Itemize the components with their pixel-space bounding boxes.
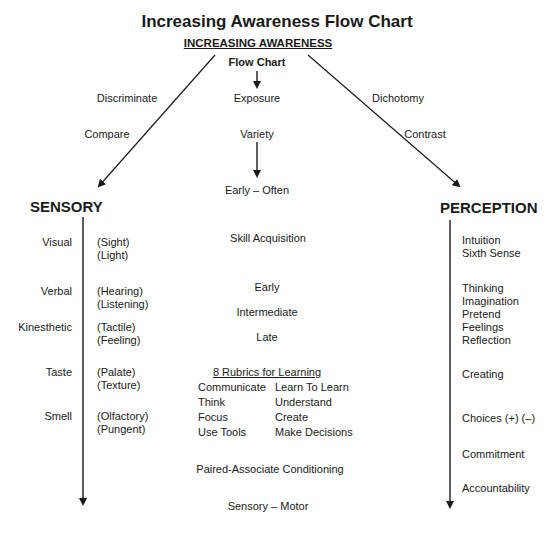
rubrics-grid: Communicate Learn To Learn Think Underst… <box>198 381 353 439</box>
perception-item: Intuition <box>462 234 521 247</box>
page-title: Increasing Awareness Flow Chart <box>141 12 412 32</box>
perception-heading: PERCEPTION <box>440 199 538 216</box>
detail-text: (Hearing) <box>97 285 148 298</box>
discriminate-label: Discriminate <box>97 92 158 105</box>
detail-text: (Sight) <box>97 236 129 249</box>
perception-item: Sixth Sense <box>462 247 521 260</box>
detail-text: (Feeling) <box>97 334 140 347</box>
detail-text: (Light) <box>97 249 129 262</box>
sense-kinesthetic: Kinesthetic <box>18 321 72 334</box>
early-often-node: Early – Often <box>225 184 289 197</box>
perception-item: Pretend <box>462 308 519 321</box>
rubric-item: Make Decisions <box>275 426 353 439</box>
rubrics-title: 8 Rubrics for Learning <box>213 366 321 379</box>
perception-item-creating: Creating <box>462 368 504 381</box>
flow-chart-label: Flow Chart <box>229 56 286 69</box>
perception-item: Reflection <box>462 334 519 347</box>
sensory-heading: SENSORY <box>30 198 103 215</box>
sense-taste: Taste <box>46 366 72 379</box>
compare-label: Compare <box>84 128 129 141</box>
rubric-item: Create <box>275 411 353 424</box>
variety-node: Variety <box>240 128 273 141</box>
rubric-item: Use Tools <box>198 426 275 439</box>
perception-item: Thinking <box>462 282 519 295</box>
perception-item: Feelings <box>462 321 519 334</box>
detail-text: (Pungent) <box>97 423 148 436</box>
sense-visual: Visual <box>42 236 72 249</box>
skill-acquisition-node: Skill Acquisition <box>230 232 306 245</box>
sense-kinesthetic-details: (Tactile) (Feeling) <box>97 321 140 347</box>
sense-smell: Smell <box>44 410 72 423</box>
conditioning-node: Paired-Associate Conditioning <box>196 463 343 476</box>
detail-text: (Olfactory) <box>97 410 148 423</box>
perception-item: Imagination <box>462 295 519 308</box>
sense-taste-details: (Palate) (Texture) <box>97 366 140 392</box>
detail-text: (Listening) <box>97 298 148 311</box>
diagram-subtitle: INCREASING AWARENESS <box>184 37 332 49</box>
contrast-label: Contrast <box>404 128 446 141</box>
rubric-item: Understand <box>275 396 353 409</box>
detail-text: (Texture) <box>97 379 140 392</box>
detail-text: (Palate) <box>97 366 140 379</box>
sense-verbal-details: (Hearing) (Listening) <box>97 285 148 311</box>
stage-late: Late <box>256 331 277 344</box>
perception-item-choices: Choices (+) (–) <box>462 412 535 425</box>
dichotomy-label: Dichotomy <box>372 92 424 105</box>
exposure-node: Exposure <box>234 92 280 105</box>
rubric-item: Learn To Learn <box>275 381 353 394</box>
sense-verbal: Verbal <box>41 285 72 298</box>
rubric-item: Communicate <box>198 381 275 394</box>
perception-item-commitment: Commitment <box>462 448 524 461</box>
perception-item-accountability: Accountability <box>462 482 530 495</box>
stage-early: Early <box>254 281 279 294</box>
arrow-to-sensory <box>99 55 215 186</box>
rubric-item: Think <box>198 396 275 409</box>
rubric-item: Focus <box>198 411 275 424</box>
sense-smell-details: (Olfactory) (Pungent) <box>97 410 148 436</box>
sense-visual-details: (Sight) (Light) <box>97 236 129 262</box>
sensory-motor-node: Sensory – Motor <box>228 500 309 513</box>
perception-group-thinking: Thinking Imagination Pretend Feelings Re… <box>462 282 519 347</box>
detail-text: (Tactile) <box>97 321 140 334</box>
stage-intermediate: Intermediate <box>236 306 297 319</box>
arrow-to-perception <box>308 55 459 186</box>
perception-group-intuition: Intuition Sixth Sense <box>462 234 521 260</box>
